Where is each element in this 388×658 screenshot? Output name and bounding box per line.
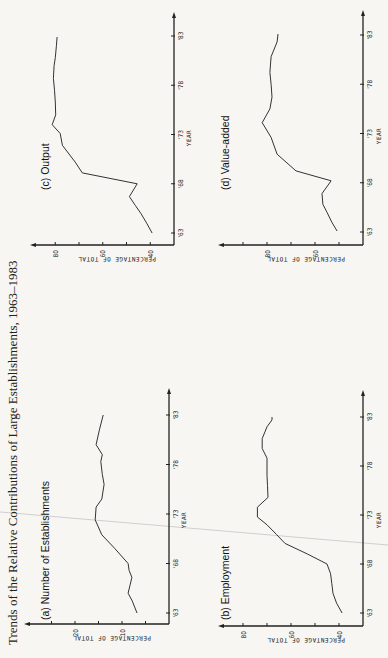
year-tick-label: '68 [177, 179, 185, 188]
y-axis-label: PERCENTAGE OF TOTAL [73, 635, 151, 642]
panel-b-employment: 406080'63'68'73'78'83PERCENTAGE OF TOTAL… [218, 390, 382, 644]
x-axis-label: YEAR [375, 128, 382, 144]
data-line [262, 34, 337, 231]
x-axis-label: YEAR [180, 512, 187, 528]
year-tick-label: '63 [172, 608, 180, 617]
year-tick-label: '73 [366, 129, 374, 138]
panel-title: (a) Number of Establishments [39, 481, 51, 620]
arrow-up-icon [167, 388, 171, 394]
panels: 1020'63'68'73'78'83PERCENTAGE OF TOTALYE… [24, 10, 382, 644]
panel-title: (d) Value-added [219, 115, 231, 190]
data-line [257, 417, 342, 613]
y-axis-label: PERCENTAGE OF TOTAL [78, 256, 156, 263]
year-tick-label: '78 [177, 80, 185, 89]
year-tick-label: '83 [177, 31, 185, 40]
panel-title: (b) Employment [219, 546, 231, 620]
scan-artifact [0, 512, 388, 545]
year-tick-label: '68 [366, 559, 374, 568]
data-line [95, 415, 137, 613]
year-tick-label: '83 [366, 30, 374, 39]
year-tick-label: '63 [366, 608, 374, 617]
value-tick-label: 80 [240, 631, 248, 639]
value-tick-label: 80 [52, 250, 60, 258]
arrow-up-icon [361, 390, 365, 396]
figure-title: Trends of the Relative Contributions of … [5, 260, 20, 645]
panel-title: (c) Output [39, 143, 51, 190]
year-tick-label: '73 [177, 130, 185, 139]
panel-d-value-added: 6080'63'68'73'78'83PERCENTAGE OF TOTALYE… [218, 10, 382, 263]
year-tick-label: '78 [366, 461, 374, 470]
arrow-up-icon [172, 12, 176, 18]
chart-page: Trends of the Relative Contributions of … [0, 0, 388, 658]
panel-c-output: 406080'63'68'73'78'83PERCENTAGE OF TOTAL… [30, 12, 192, 263]
y-axis-label: PERCENTAGE OF TOTAL [267, 637, 345, 644]
arrow-left-icon [218, 624, 224, 628]
arrow-left-icon [30, 243, 36, 247]
panel-a-establishments: 1020'63'68'73'78'83PERCENTAGE OF TOTALYE… [24, 388, 187, 642]
year-tick-label: '73 [366, 510, 374, 519]
year-tick-label: '78 [366, 79, 374, 88]
arrow-up-icon [361, 10, 365, 16]
year-tick-label: '83 [172, 410, 180, 419]
year-tick-label: '63 [177, 228, 185, 237]
year-tick-label: '78 [172, 460, 180, 469]
x-axis-label: YEAR [375, 512, 382, 528]
year-tick-label: '68 [172, 559, 180, 568]
year-tick-label: '68 [366, 178, 374, 187]
arrow-left-icon [218, 243, 224, 247]
y-axis-label: PERCENTAGE OF TOTAL [267, 256, 345, 263]
year-tick-label: '63 [366, 227, 374, 236]
arrow-left-icon [24, 622, 30, 626]
year-tick-label: '73 [172, 509, 180, 518]
data-line [52, 37, 152, 233]
year-tick-label: '83 [366, 412, 374, 421]
x-axis-label: YEAR [185, 130, 192, 146]
